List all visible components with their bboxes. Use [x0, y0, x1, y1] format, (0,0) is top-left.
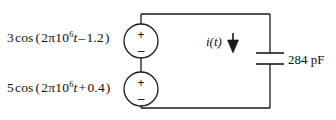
source-bottom-coefficient: 2π10 — [41, 80, 69, 95]
capacitor-value-label: 284 pF — [288, 53, 324, 66]
source-top-function: cos — [14, 30, 35, 45]
source-bottom-minus-sign: – — [134, 92, 148, 106]
current-arrow-head — [228, 40, 239, 53]
source-bottom-close-paren: ) — [105, 80, 112, 95]
current-label: i(t) — [206, 35, 222, 48]
source-bottom-time-var: t — [74, 80, 78, 95]
source-top-close-paren: ) — [104, 30, 111, 45]
source-top-coefficient: 2π10 — [41, 30, 69, 45]
source-top-plus-sign: + — [134, 28, 148, 42]
source-top-time-var: t — [74, 30, 78, 45]
source-bottom-amplitude: 5 — [7, 80, 14, 95]
source-top-amplitude: 3 — [7, 30, 14, 45]
source-top-expression: 3cos(2π106t–1.2) — [7, 31, 111, 45]
circuit-diagram: 3cos(2π106t–1.2) 5cos(2π106t+0.4) + – + … — [0, 0, 336, 120]
source-bottom-operator: + — [78, 80, 88, 95]
source-top-phase: 1.2 — [87, 30, 104, 45]
source-top-minus-sign: – — [134, 44, 148, 58]
source-bottom-phase: 0.4 — [87, 80, 104, 95]
schematic-canvas — [0, 0, 336, 120]
source-top-operator: – — [78, 30, 87, 45]
source-bottom-expression: 5cos(2π106t+0.4) — [7, 81, 112, 95]
source-bottom-plus-sign: + — [134, 76, 148, 90]
source-bottom-function: cos — [14, 80, 35, 95]
